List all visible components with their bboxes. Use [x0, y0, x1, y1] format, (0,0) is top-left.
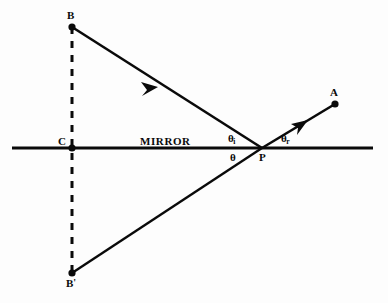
point-b-image-label: B'	[66, 278, 76, 289]
reflection-diagram: B B' A C P MIRROR θi θr θ	[0, 0, 388, 303]
point-b-label: B	[67, 10, 74, 21]
angle-of-incidence-label: θi	[228, 133, 236, 144]
point-a-dot	[331, 100, 338, 107]
theta-r-subscript: r	[286, 137, 289, 146]
incident-ray	[72, 27, 262, 148]
point-b-image-prime: '	[73, 277, 76, 288]
point-c-label: C	[58, 136, 66, 147]
mirror-label: MIRROR	[140, 136, 191, 147]
point-b-dot	[68, 23, 75, 30]
diagram-canvas	[0, 0, 388, 303]
angle-of-reflection-label: θr	[281, 133, 290, 144]
virtual-ray	[72, 148, 262, 273]
point-c-dot	[68, 144, 75, 151]
point-a-label: A	[330, 87, 338, 98]
point-b-image-dot	[68, 269, 75, 276]
angle-theta-label: θ	[230, 152, 236, 163]
point-p-label: P	[259, 152, 266, 163]
incident-ray-arrowhead	[141, 82, 158, 96]
